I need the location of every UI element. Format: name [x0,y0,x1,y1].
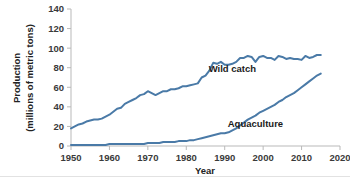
x-tick-label: 2020 [329,152,350,163]
y-tick-label: 100 [48,43,64,54]
series-annotations: Wild catchAquaculture [209,63,283,130]
series-label-wild-catch: Wild catch [209,63,257,74]
y-axis-title-line1: Production [11,53,22,103]
x-axis-title: Year [195,165,215,176]
production-line-chart: 020406080100120140 195019601970198019902… [0,0,350,184]
x-tick-label: 2010 [291,152,312,163]
x-tick-label: 2000 [253,152,274,163]
y-tick-label: 60 [53,82,64,93]
y-axis-title-line2: (millions of metric tons) [24,24,35,132]
x-tick-label: 1980 [176,152,197,163]
y-tick-label: 140 [48,3,64,14]
y-tick-label: 80 [53,62,64,73]
series-lines [71,55,321,145]
x-tick-label: 1970 [137,152,158,163]
y-axis-title: Production (millions of metric tons) [11,24,35,132]
y-tick-label: 120 [48,23,64,34]
x-tick-label: 1950 [60,152,81,163]
y-tick-label: 40 [53,101,64,112]
y-tick-label: 20 [53,121,64,132]
series-line-wild-catch [71,55,321,128]
series-label-aquaculture: Aquaculture [228,118,283,129]
chart-figure: 020406080100120140 195019601970198019902… [0,0,350,184]
x-tick-label: 1990 [214,152,235,163]
y-tick-label: 0 [59,140,64,151]
y-axis-tick-labels: 020406080100120140 [48,3,64,151]
x-tick-label: 1960 [99,152,120,163]
x-axis-ticks [71,146,340,150]
bottom-divider [0,176,350,177]
y-axis-ticks [67,9,71,146]
x-axis-tick-labels: 19501960197019801990200020102020 [60,152,350,163]
